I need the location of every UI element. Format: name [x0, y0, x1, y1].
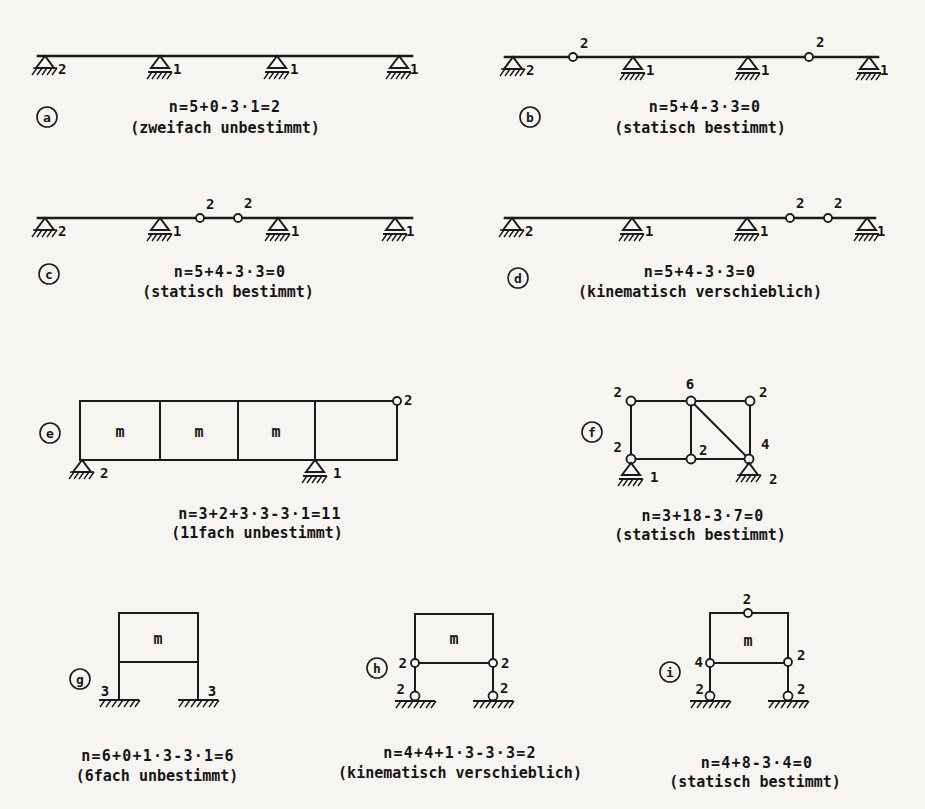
roller-support-icon	[386, 56, 411, 79]
node-label: 6	[686, 376, 694, 392]
hinge-icon	[489, 659, 497, 667]
hinge-label: 2	[501, 655, 509, 671]
hinge-icon	[411, 659, 419, 667]
support-label: 2	[525, 223, 533, 239]
support-label: 1	[173, 223, 181, 239]
support-label: 2	[58, 223, 66, 239]
support-label: 1	[333, 465, 341, 481]
ground-hatch-icon	[768, 701, 809, 708]
figure-letter: g	[76, 672, 84, 687]
hinge-label: 2	[404, 392, 412, 408]
frame-columns	[415, 663, 493, 697]
node-label: 2	[614, 439, 622, 455]
figure-a: 2 1 1 1 a n=5+0-3·1=2 (zweifach unbestim…	[32, 56, 418, 137]
roller-support-icon	[856, 57, 881, 80]
truss-node-icon	[687, 455, 696, 464]
figure-letter: e	[46, 426, 54, 441]
hinge-label: 2	[206, 196, 214, 212]
roller-support-icon	[147, 56, 172, 79]
hinge-icon	[805, 53, 813, 61]
figure-i: m 2 4 2 2 2 i n=4+8-3·4=0 (statisch best…	[660, 591, 841, 791]
figure-h: m 2 2 2 2 h n=4+4+1·3-3·3=2 (kinematisch…	[338, 614, 582, 782]
hinge-label: 2	[816, 34, 824, 50]
support-label: 1	[761, 62, 769, 78]
cell-label: m	[449, 630, 458, 648]
pinned-support-icon	[32, 218, 57, 237]
node-label: 2	[759, 384, 767, 400]
figure-g: m 3 3 g n=6+0+1·3-3·1=6 (6fach unbestimm…	[70, 613, 238, 785]
cell-label: m	[194, 423, 203, 441]
pinned-support-icon	[500, 57, 525, 76]
fixed-support-icon	[178, 700, 219, 707]
hinge-icon	[824, 214, 832, 222]
ground-hatch-icon	[395, 701, 436, 708]
frame-columns	[119, 662, 198, 700]
roller-support-icon	[618, 463, 643, 486]
support-label: 1	[290, 61, 298, 77]
hinge-label: 2	[244, 195, 252, 211]
support-label: 1	[877, 223, 885, 239]
hinge-icon	[786, 214, 794, 222]
hinge-label: 2	[797, 681, 805, 697]
roller-support-icon	[734, 218, 759, 241]
figure-letter: h	[373, 661, 381, 676]
truss-members	[631, 401, 750, 459]
cell-label: m	[115, 423, 124, 441]
hinge-icon	[706, 659, 714, 667]
classification-note: (statisch bestimmt)	[142, 283, 314, 301]
hinge-icon	[744, 609, 752, 617]
hinge-label: 2	[797, 647, 805, 663]
support-label: 1	[291, 223, 299, 239]
roller-support-icon	[302, 460, 327, 483]
hinge-icon	[234, 214, 242, 222]
pinned-support-icon	[736, 463, 761, 482]
support-label: 2	[769, 471, 777, 487]
support-label: 1	[406, 223, 414, 239]
figure-b: 2 2 2 1 1 1 b n=5+4-3·3=0 (statisch best…	[500, 34, 888, 137]
pinned-support-icon	[32, 56, 57, 75]
hinge-label: 2	[796, 195, 804, 211]
formula: n=3+18-3·7=0	[642, 507, 765, 525]
figure-letter: a	[43, 110, 51, 125]
formula: n=6+0+1·3-3·1=6	[81, 747, 234, 765]
node-label: 4	[761, 436, 769, 452]
pinned-support-icon	[69, 460, 94, 479]
truss-node-icon	[627, 397, 636, 406]
base-hinge-icon	[489, 692, 498, 701]
formula: n=5+0-3·1=2	[169, 98, 282, 116]
node-label: 2	[699, 442, 707, 458]
classification-note: (6fach unbestimmt)	[76, 767, 239, 785]
cell-label: m	[271, 423, 280, 441]
ground-hatch-icon	[690, 701, 731, 708]
hinge-label: 2	[500, 680, 508, 696]
figure-e: m m m 2 2 1 e n=3+2+3·3-3·1=11 (11fach u…	[40, 392, 412, 542]
roller-support-icon	[854, 218, 879, 241]
classification-note: (11fach unbestimmt)	[171, 524, 343, 542]
figure-letter: c	[45, 267, 53, 282]
formula: n=4+4+1·3-3·3=2	[383, 744, 536, 762]
support-label: 1	[880, 62, 888, 78]
figure-letter: f	[588, 425, 596, 440]
roller-support-icon	[382, 218, 407, 241]
classification-note: (statisch bestimmt)	[669, 773, 841, 791]
support-label: 3	[208, 683, 216, 699]
roller-support-icon	[147, 218, 172, 241]
formula: n=5+4-3·3=0	[174, 263, 287, 281]
roller-support-icon	[619, 218, 644, 241]
classification-note: (statisch bestimmt)	[614, 526, 786, 544]
figure-c: 2 2 2 1 1 1 c n=5+4-3·3=0 (statisch best…	[32, 195, 414, 301]
figure-f: 2 6 2 2 2 4 1 2 f n=3+18-3·7=0 (statisch…	[582, 376, 786, 544]
base-hinge-icon	[706, 692, 715, 701]
support-label: 2	[58, 61, 66, 77]
support-label: 1	[645, 223, 653, 239]
truss-node-icon	[746, 397, 755, 406]
roller-support-icon	[265, 218, 290, 241]
figure-d: 2 2 2 1 1 1 d n=5+4-3·3=0 (kinematisch v…	[499, 195, 885, 301]
cell-label: m	[743, 632, 752, 650]
support-label: 1	[173, 61, 181, 77]
frame-columns	[710, 663, 788, 697]
roller-support-icon	[620, 57, 645, 80]
statics-figure-page: 2 1 1 1 a n=5+0-3·1=2 (zweifach unbestim…	[0, 0, 925, 809]
figure-letter: i	[666, 665, 674, 680]
pinned-support-icon	[499, 218, 524, 237]
